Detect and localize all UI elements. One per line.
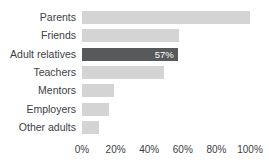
x-tick-label: 20% <box>106 143 126 157</box>
bar-employers <box>82 103 109 116</box>
category-label-teachers: Teachers <box>0 66 76 79</box>
bar-mentors <box>82 84 114 97</box>
bar-row: Employers <box>0 103 269 116</box>
x-tick-label: 60% <box>173 143 193 157</box>
bar-teachers <box>82 66 164 79</box>
bar-row: Adult relatives57% <box>0 48 269 61</box>
bar-chart: ParentsFriendsAdult relatives57%Teachers… <box>0 0 269 168</box>
bar-friends <box>82 29 179 42</box>
bar-row: Mentors <box>0 84 269 97</box>
category-label-employers: Employers <box>0 103 76 116</box>
category-label-friends: Friends <box>0 29 76 42</box>
bar-row: Friends <box>0 29 269 42</box>
bar-row: Other adults <box>0 121 269 134</box>
bar-value-label: 57% <box>155 48 174 61</box>
category-label-parents: Parents <box>0 11 76 24</box>
category-label-mentors: Mentors <box>0 84 76 97</box>
x-tick-label: 100% <box>237 143 263 157</box>
bar-row: Parents <box>0 11 269 24</box>
x-tick-label: 80% <box>206 143 226 157</box>
bar-adult-relatives: 57% <box>82 48 178 61</box>
category-label-other-adults: Other adults <box>0 121 76 134</box>
x-tick-label: 40% <box>139 143 159 157</box>
bar-other-adults <box>82 121 99 134</box>
x-axis: 0%20%40%60%80%100% <box>0 143 269 159</box>
bar-parents <box>82 11 250 24</box>
category-label-adult-relatives: Adult relatives <box>0 48 76 61</box>
bar-row: Teachers <box>0 66 269 79</box>
x-tick-label: 0% <box>75 143 89 157</box>
